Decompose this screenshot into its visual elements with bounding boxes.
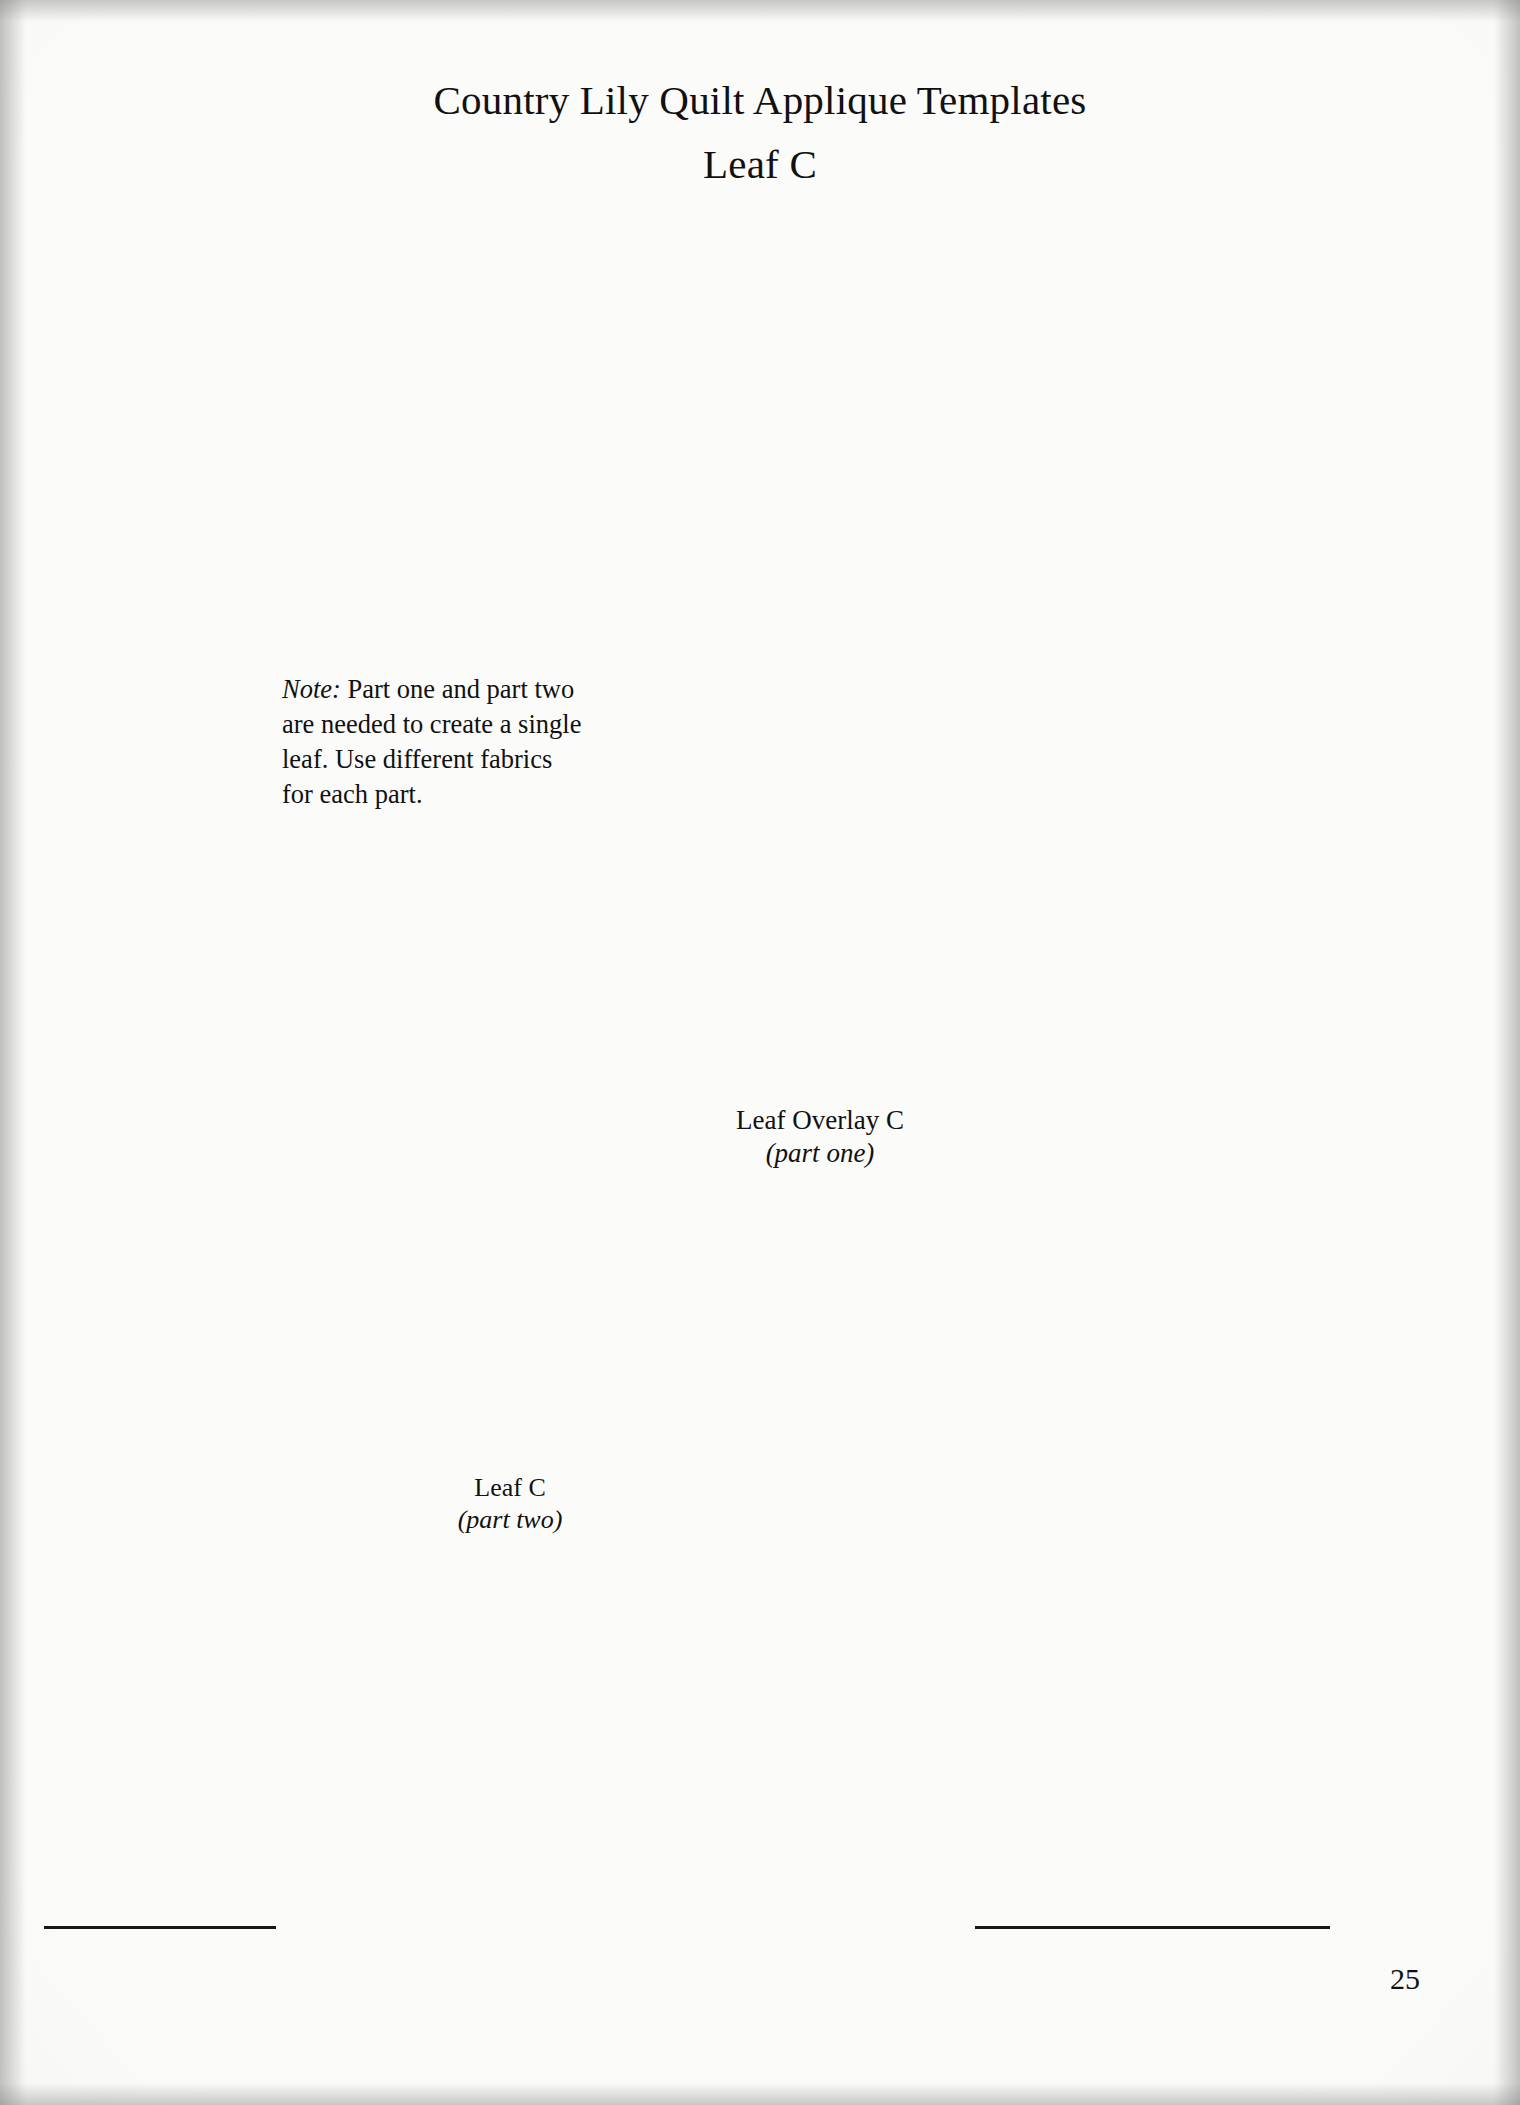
page-number: 25 <box>1390 1962 1420 1996</box>
leaf-base-stem-line <box>546 1826 1258 1955</box>
note-lead-label: Note: <box>282 674 341 704</box>
leaf-overlay-part-number: (part one) <box>660 1137 980 1170</box>
leaf-overlay-part-label: Leaf Overlay C (part one) <box>660 1104 980 1170</box>
baseline-rule-right <box>975 1926 1330 1929</box>
leaf-overlay-name: Leaf Overlay C <box>736 1105 904 1135</box>
leaf-template-artwork <box>0 0 1520 2105</box>
leaf-base-dashed-closure <box>528 1828 1276 1999</box>
leaf-base-inner-curve <box>548 1790 1248 1933</box>
note-block: Note: Part one and part two are needed t… <box>282 672 582 812</box>
baseline-rule-left <box>44 1926 276 1929</box>
page-title: Country Lily Quilt Applique Templates <box>0 76 1520 124</box>
leaf-seam-allowance-band-left <box>465 36 920 1940</box>
leaf-seam-allowance-band <box>888 20 1358 1830</box>
leaf-c-part-label: Leaf C (part two) <box>380 1472 640 1535</box>
leaf-c-name: Leaf C <box>474 1473 545 1502</box>
scanned-book-page: Country Lily Quilt Applique Templates Le… <box>0 0 1520 2105</box>
page-subtitle: Leaf C <box>0 140 1520 188</box>
leaf-c-part-number: (part two) <box>380 1504 640 1536</box>
